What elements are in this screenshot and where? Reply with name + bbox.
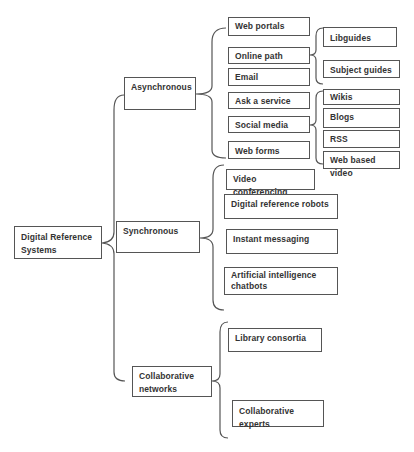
root-node-line2: Systems <box>21 244 95 257</box>
node-video-conferencing: Video conferencing <box>226 169 315 190</box>
node-wikis-label: Wikis <box>330 92 353 102</box>
async-brace <box>196 28 226 158</box>
node-web-portals-label: Web portals <box>235 21 285 31</box>
node-collaborative-networks: Collaborative networks <box>132 366 212 397</box>
node-rss: RSS <box>323 130 400 148</box>
node-web-portals: Web portals <box>228 17 310 36</box>
node-collaborative-line2: networks <box>139 383 205 396</box>
node-blogs-label: Blogs <box>330 112 354 122</box>
node-libguides: Libguides <box>323 27 397 47</box>
node-wikis: Wikis <box>323 89 400 105</box>
node-instant-messaging-label: Instant messaging <box>233 234 309 244</box>
node-web-forms: Web forms <box>228 141 310 159</box>
node-digital-reference-robots-label: Digital reference robots <box>231 199 329 209</box>
node-email: Email <box>228 68 310 86</box>
node-social-media-label: Social media <box>235 120 288 130</box>
node-asynchronous-label: Asynchronous <box>131 82 192 92</box>
node-synchronous: Synchronous <box>116 221 200 253</box>
node-ai-chatbots: Artificial intelligence chatbots <box>224 267 338 295</box>
root-node-line1: Digital Reference <box>21 231 95 244</box>
node-web-based-video: Web based video <box>323 151 400 169</box>
node-social-media: Social media <box>228 116 310 133</box>
sync-brace <box>200 165 224 310</box>
node-libguides-label: Libguides <box>330 33 371 43</box>
node-library-consortia-label: Library consortia <box>235 333 306 343</box>
node-web-forms-label: Web forms <box>235 146 280 156</box>
collab-brace <box>212 322 228 438</box>
node-subject-guides: Subject guides <box>323 60 400 78</box>
node-blogs: Blogs <box>323 108 400 128</box>
online-path-brace <box>310 28 323 84</box>
node-digital-reference-robots: Digital reference robots <box>224 194 338 219</box>
node-collaborative-experts-label: Collaborative experts <box>239 406 294 429</box>
node-email-label: Email <box>235 72 258 82</box>
node-rss-label: RSS <box>330 134 348 144</box>
node-online-path-label: Online path <box>235 51 283 61</box>
node-collaborative-line1: Collaborative <box>139 370 205 383</box>
node-instant-messaging: Instant messaging <box>226 229 338 254</box>
node-collaborative-experts: Collaborative experts <box>232 400 324 427</box>
root-node: Digital Reference Systems <box>14 226 102 259</box>
node-asynchronous: Asynchronous <box>124 77 196 110</box>
node-library-consortia: Library consortia <box>228 328 322 352</box>
node-ask-a-service-label: Ask a service <box>235 96 291 106</box>
node-subject-guides-label: Subject guides <box>330 65 392 75</box>
node-ai-chatbots-line2: chatbots <box>231 281 331 292</box>
node-ai-chatbots-line1: Artificial intelligence <box>231 270 331 281</box>
node-ask-a-service: Ask a service <box>228 92 310 109</box>
node-synchronous-label: Synchronous <box>123 226 178 236</box>
social-media-brace <box>310 91 323 164</box>
node-online-path: Online path <box>228 47 310 64</box>
